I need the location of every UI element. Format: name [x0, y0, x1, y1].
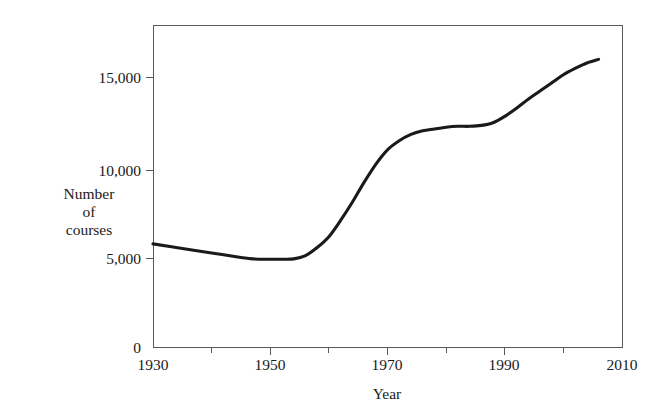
y-tick-label-0: 0: [133, 339, 141, 356]
data-series-number-of-courses: [153, 59, 599, 259]
x-tick-label-1990: 1990: [489, 356, 520, 373]
y-axis-title-line-3: courses: [66, 221, 113, 238]
y-axis-title: Number of courses: [64, 185, 116, 238]
x-tick-label-1930: 1930: [138, 356, 169, 373]
y-axis-title-line-1: Number: [64, 185, 116, 202]
x-tick-labels: 1930 1950 1970 1990 2010: [138, 356, 638, 373]
plot-frame: [154, 26, 623, 348]
y-tick-labels: 15,000 10,000 5,000 0: [98, 69, 141, 356]
y-tick-label-15000: 15,000: [98, 69, 141, 86]
x-tick-label-1970: 1970: [372, 356, 403, 373]
x-tick-label-1950: 1950: [255, 356, 286, 373]
x-axis-ticks: [212, 348, 564, 356]
y-tick-label-5000: 5,000: [106, 250, 141, 267]
y-axis-ticks: [146, 78, 154, 259]
x-axis-title: Year: [373, 385, 402, 402]
y-axis-title-line-2: of: [83, 203, 97, 220]
number-of-courses-line-chart: 15,000 10,000 5,000 0 1930 1950 1970 199…: [0, 0, 669, 420]
chart-figure: 15,000 10,000 5,000 0 1930 1950 1970 199…: [0, 0, 669, 420]
y-tick-label-10000: 10,000: [98, 162, 141, 179]
x-tick-label-2010: 2010: [607, 356, 638, 373]
